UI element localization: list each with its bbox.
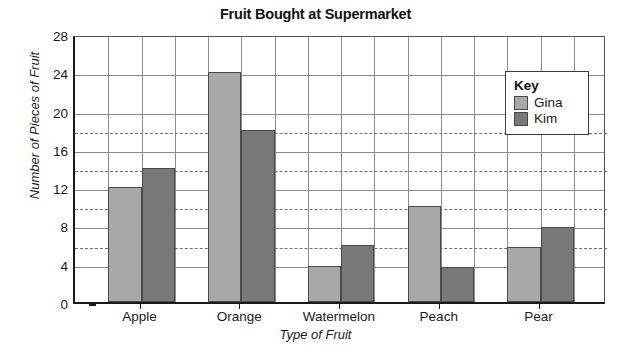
legend-swatch-icon (514, 96, 528, 110)
x-tick-label-apple: Apple (122, 309, 157, 324)
x-axis-title: Type of Fruit (0, 327, 631, 342)
y-axis-tick-labels: 0481216202428 (18, 36, 68, 304)
x-tick-label-orange: Orange (217, 309, 262, 324)
gridline-horizontal (75, 152, 604, 153)
bar-pear-kim (541, 227, 574, 302)
x-tick-label-pear: Pear (524, 309, 553, 324)
x-tick-mark (140, 304, 141, 309)
y-tick-label: 4 (28, 258, 68, 273)
chart-title: Fruit Bought at Supermarket (0, 6, 631, 22)
bar-peach-gina (408, 206, 441, 302)
gridline-vertical (374, 37, 375, 302)
bar-apple-kim (142, 168, 175, 302)
gridline-vertical (175, 37, 176, 302)
bar-orange-gina (208, 72, 241, 302)
bar-orange-kim (241, 130, 274, 302)
legend-entry-gina: Gina (514, 96, 580, 110)
y-tick-label: 0 (28, 297, 68, 312)
bar-pear-gina (507, 247, 540, 302)
legend-label: Kim (534, 112, 557, 126)
x-tick-label-peach: Peach (420, 309, 458, 324)
bar-watermelon-gina (308, 266, 341, 302)
gridline-vertical (308, 37, 309, 302)
bar-chart: Fruit Bought at Supermarket 048121620242… (0, 0, 631, 358)
legend-entry-kim: Kim (514, 112, 580, 126)
x-tick-mark (239, 304, 240, 309)
y-tick-mark (89, 304, 96, 306)
legend: Key GinaKim (505, 71, 589, 135)
legend-label: Gina (534, 96, 563, 110)
bar-watermelon-kim (341, 245, 374, 302)
bar-apple-gina (108, 187, 141, 302)
x-tick-mark (439, 304, 440, 309)
y-axis-title: Number of Pieces of Fruit (27, 31, 42, 221)
x-tick-label-watermelon: Watermelon (303, 309, 375, 324)
legend-swatch-icon (514, 112, 528, 126)
legend-entries: GinaKim (514, 96, 580, 126)
gridline-vertical (441, 37, 442, 302)
legend-title: Key (514, 78, 580, 93)
bar-peach-kim (441, 267, 474, 302)
x-tick-mark (339, 304, 340, 309)
gridline-vertical (275, 37, 276, 302)
y-tick-label: 8 (28, 220, 68, 235)
gridline-vertical (474, 37, 475, 302)
x-tick-mark (539, 304, 540, 309)
